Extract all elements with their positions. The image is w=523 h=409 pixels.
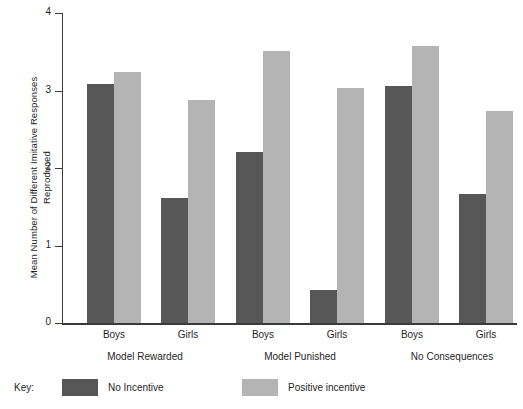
x-axis-line [62,323,517,325]
bar-positive-incentive-4 [412,46,439,323]
y-tick-label-4: 4 [45,6,51,17]
x-tick-label-boys-1: Boys [80,329,148,340]
x-tick-label-girls-3: Girls [452,329,520,340]
y-tick-label-0: 0 [45,316,51,327]
bar-no-incentive-1 [161,198,188,323]
bar-positive-incentive-1 [188,100,215,323]
y-tick-2: 2 [55,168,63,169]
y-tick-4: 4 [55,13,63,14]
x-group-label-model-rewarded: Model Rewarded [75,351,215,362]
bar-chart: Mean Number of Different Imitative Respo… [0,0,523,409]
bar-no-incentive-4 [385,86,412,323]
plot-area: 4 3 2 1 0 Boys Girls Boys Girls Boys Gir… [62,13,517,323]
bar-no-incentive-2 [236,152,263,323]
x-tick-label-boys-3: Boys [378,329,446,340]
legend-key-label: Key: [14,382,34,393]
bar-no-incentive-0 [87,84,114,323]
bar-positive-incentive-5 [486,111,513,323]
legend-label-no-incentive: No Incentive [108,382,164,393]
y-tick-1: 1 [55,246,63,247]
bar-positive-incentive-0 [114,72,141,323]
bar-positive-incentive-3 [337,88,364,323]
x-tick-label-girls-2: Girls [303,329,371,340]
legend-swatch-no-incentive [62,379,98,396]
y-tick-label-1: 1 [45,239,51,250]
y-tick-label-2: 2 [45,161,51,172]
y-tick-3: 3 [55,91,63,92]
x-tick-label-boys-2: Boys [229,329,297,340]
legend: Key: No Incentive Positive incentive [14,378,514,400]
x-tick-label-girls-1: Girls [154,329,222,340]
y-tick-label-3: 3 [45,84,51,95]
y-tick-0: 0 [55,323,63,324]
legend-label-positive-incentive: Positive incentive [288,382,365,393]
legend-swatch-positive-incentive [242,379,278,396]
bar-no-incentive-3 [310,290,337,323]
x-group-label-model-punished: Model Punished [230,351,370,362]
bar-no-incentive-5 [459,194,486,323]
x-group-label-no-consequences: No Consequences [382,351,522,362]
bar-positive-incentive-2 [263,51,290,323]
